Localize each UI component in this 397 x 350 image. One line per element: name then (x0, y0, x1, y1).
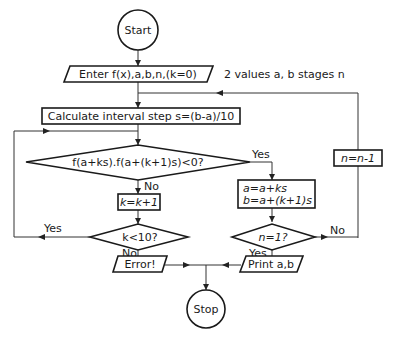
stop-label: Stop (193, 303, 218, 316)
flowchart-canvas: Start Enter f(x),a,b,n,(k=0) 2 values a,… (0, 0, 397, 350)
decr-n-label: n=n-1 (341, 152, 375, 165)
node-assign: a=a+ks b=a+(k+1)s (238, 180, 315, 208)
node-error: Error! (113, 256, 167, 272)
print-label: Print a,b (248, 258, 294, 271)
assign-label-line2: b=a+(k+1)s (243, 194, 312, 207)
annotation-label: 2 values a, b stages n (224, 68, 345, 81)
error-label: Error! (124, 258, 155, 271)
input-label: Enter f(x),a,b,n,(k=0) (79, 68, 197, 81)
incr-k-label: k=k+1 (120, 196, 158, 209)
node-test-sign: f(a+ks).f(a+(k+1)s)<0? (26, 145, 250, 180)
test-n-label: n=1? (258, 231, 287, 244)
node-incr-k: k=k+1 (118, 194, 160, 210)
edge-label-sign-yes: Yes (251, 148, 270, 161)
test-k-label: k<10? (122, 231, 158, 244)
edge-label-k-yes: Yes (43, 222, 62, 235)
node-input: Enter f(x),a,b,n,(k=0) (64, 66, 213, 82)
calc-label: Calculate interval step s=(b-a)/10 (48, 110, 235, 123)
test-sign-label: f(a+ks).f(a+(k+1)s)<0? (72, 156, 204, 169)
node-decr-n: n=n-1 (334, 150, 382, 166)
node-test-n: n=1? (232, 224, 315, 250)
node-start: Start (118, 10, 158, 50)
node-calc: Calculate interval step s=(b-a)/10 (42, 108, 240, 124)
node-test-k: k<10? (90, 224, 188, 250)
edge-label-n-no: No (330, 224, 345, 237)
start-label: Start (125, 24, 153, 37)
node-stop: Stop (187, 290, 225, 328)
node-print: Print a,b (240, 256, 303, 272)
edge-label-sign-no: No (144, 180, 159, 193)
